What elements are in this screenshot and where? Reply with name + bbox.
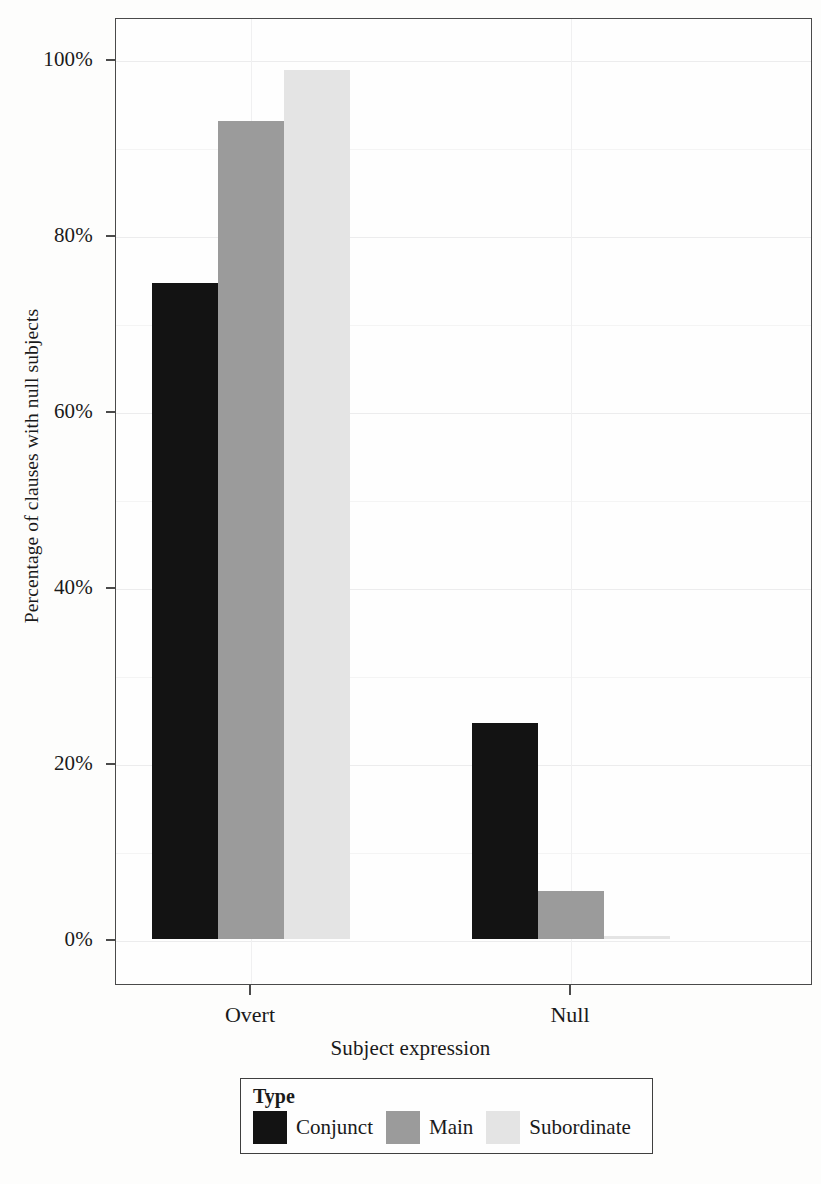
x-tick-mark-overt xyxy=(249,985,251,995)
bar-overt-main xyxy=(218,121,284,939)
plot-area xyxy=(116,19,811,984)
legend-swatch-conjunct-icon xyxy=(253,1111,287,1144)
x-tick-mark-null xyxy=(569,985,571,995)
y-tick-mark-100 xyxy=(106,59,115,61)
bar-overt-subordinate xyxy=(284,70,350,939)
y-tick-mark-80 xyxy=(106,235,115,237)
y-tick-label-60: 60% xyxy=(0,401,93,422)
legend-item-conjunct[interactable]: Conjunct xyxy=(253,1111,373,1144)
gridline-100 xyxy=(116,61,811,62)
plot-panel xyxy=(115,18,812,985)
legend-swatch-subordinate-icon xyxy=(486,1111,520,1144)
y-tick-mark-60 xyxy=(106,411,115,413)
y-tick-mark-20 xyxy=(106,763,115,765)
legend-item-main[interactable]: Main xyxy=(386,1111,473,1144)
x-tick-label-null: Null xyxy=(550,1002,589,1028)
legend-label-subordinate: Subordinate xyxy=(529,1115,630,1140)
bar-null-subordinate xyxy=(604,936,670,939)
y-tick-label-20: 20% xyxy=(0,753,93,774)
legend-title: Type xyxy=(253,1085,642,1108)
bar-null-main xyxy=(538,891,604,939)
legend-label-main: Main xyxy=(429,1115,473,1140)
bar-null-conjunct xyxy=(472,723,538,939)
x-tick-label-overt: Overt xyxy=(225,1002,275,1028)
gridline-0 xyxy=(116,941,811,942)
legend-item-subordinate[interactable]: Subordinate xyxy=(486,1111,630,1144)
y-tick-label-80: 80% xyxy=(0,225,93,246)
bar-overt-conjunct xyxy=(152,283,218,939)
legend-items: ConjunctMainSubordinate xyxy=(253,1111,642,1144)
y-tick-label-40: 40% xyxy=(0,577,93,598)
legend: Type ConjunctMainSubordinate xyxy=(240,1078,653,1154)
y-tick-label-100: 100% xyxy=(0,49,93,70)
y-tick-label-0: 0% xyxy=(0,929,93,950)
legend-label-conjunct: Conjunct xyxy=(296,1115,373,1140)
vgridline-null xyxy=(571,19,572,984)
x-axis-title: Subject expression xyxy=(0,1036,821,1061)
y-tick-mark-0 xyxy=(106,939,115,941)
y-tick-mark-40 xyxy=(106,587,115,589)
legend-swatch-main-icon xyxy=(386,1111,420,1144)
y-axis-title: Percentage of clauses with null subjects xyxy=(21,166,43,766)
chart-page: 0%20%40%60%80%100% OvertNull Percentage … xyxy=(0,0,821,1184)
